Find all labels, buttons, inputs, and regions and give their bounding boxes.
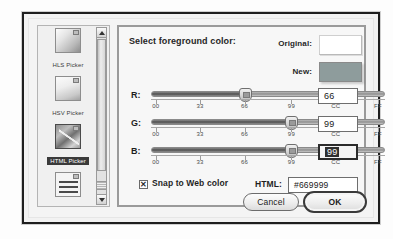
tick-label: 00 <box>152 131 159 137</box>
checkbox-check-icon: ✕ <box>140 181 147 189</box>
scroll-up-arrow-icon[interactable] <box>97 28 106 38</box>
red-value-field[interactable]: 66 <box>318 88 358 104</box>
icon-corner-badge <box>73 30 79 35</box>
screen-background: HLS Picker HSV Picker HTML Picker <box>0 0 393 239</box>
scrollbar-grip[interactable] <box>97 181 106 190</box>
tick-label: 66 <box>241 159 248 165</box>
original-color-swatch <box>319 35 362 55</box>
icon-corner-badge <box>73 78 79 83</box>
blue-value-text: 99 <box>325 147 339 157</box>
new-swatch-label: New: <box>292 67 312 76</box>
scrollbar-thumb[interactable] <box>97 39 106 171</box>
hsv-gradient-icon <box>55 76 81 101</box>
rgb-sliders-icon <box>55 172 81 197</box>
scroll-down-arrow-icon[interactable] <box>97 194 106 204</box>
arrow-down-glyph <box>99 198 105 202</box>
tick-label: 33 <box>197 159 204 165</box>
snap-to-web-label: Snap to Web color <box>152 178 228 188</box>
original-swatch-label: Original: <box>278 39 312 48</box>
channel-label-blue: B: <box>131 146 141 156</box>
blue-slider-fill <box>152 148 291 152</box>
dialog-inner-frame: HLS Picker HSV Picker HTML Picker <box>28 18 374 218</box>
green-value-field[interactable]: 99 <box>318 116 358 132</box>
picker-main-panel: Select foreground color: Original: New: … <box>117 25 366 207</box>
ok-button[interactable]: OK <box>303 191 367 213</box>
tick-label: FF <box>374 103 382 109</box>
picker-item-html[interactable]: HTML Picker <box>38 124 98 170</box>
tick-label: 99 <box>288 131 295 137</box>
color-picker-dialog: HLS Picker HSV Picker HTML Picker <box>22 12 380 224</box>
picker-item-label: HTML Picker <box>47 157 89 165</box>
green-slider-fill <box>152 120 291 124</box>
rgb-icon-bar <box>59 191 78 193</box>
channel-row-blue: B: 00 33 66 99 CC FF <box>119 145 364 171</box>
rgb-icon-bar <box>59 186 78 188</box>
html-field-label: HTML: <box>255 179 282 189</box>
red-value-text: 66 <box>324 91 334 101</box>
tick-label: FF <box>374 131 382 137</box>
picker-list-pane: HLS Picker HSV Picker HTML Picker <box>37 25 110 207</box>
picker-item-label: HSV Picker <box>49 109 87 117</box>
channel-row-green: G: 00 33 66 99 CC FF <box>119 117 364 143</box>
snap-to-web-checkbox[interactable]: ✕ <box>139 180 148 189</box>
tick-label: 33 <box>197 103 204 109</box>
picker-list: HLS Picker HSV Picker HTML Picker <box>38 26 98 207</box>
green-value-text: 99 <box>324 119 334 129</box>
picker-item-hsv[interactable]: HSV Picker <box>38 76 98 122</box>
channel-label-red: R: <box>131 90 141 100</box>
picker-item-label: RGB Picker <box>49 205 87 207</box>
html-color-value: #669999 <box>294 180 329 190</box>
icon-corner-badge <box>73 126 79 131</box>
icon-corner-badge <box>73 174 79 179</box>
tick-label: 33 <box>197 131 204 137</box>
picker-item-label: HLS Picker <box>49 61 86 69</box>
dialog-title: Select foreground color: <box>129 36 236 46</box>
red-slider-fill <box>152 92 245 96</box>
channel-row-red: R: 00 33 66 99 CC FF <box>119 89 364 115</box>
picker-item-rgb[interactable]: RGB Picker <box>38 172 98 207</box>
new-color-swatch <box>319 62 362 82</box>
hls-gradient-icon <box>55 28 81 53</box>
html-gradient-icon <box>55 124 81 149</box>
tick-label: 66 <box>241 131 248 137</box>
tick-label: 00 <box>152 159 159 165</box>
tick-label: FF <box>374 159 382 165</box>
tick-label: 00 <box>152 103 159 109</box>
picker-list-scrollbar[interactable] <box>96 27 107 205</box>
cancel-button[interactable]: Cancel <box>243 193 299 211</box>
tick-label: 99 <box>288 103 295 109</box>
blue-value-field[interactable]: 99 <box>318 144 358 160</box>
arrow-up-glyph <box>99 31 105 35</box>
rgb-icon-bar <box>59 181 78 183</box>
picker-item-hls[interactable]: HLS Picker <box>38 28 98 74</box>
tick-label: 99 <box>288 159 295 165</box>
channel-label-green: G: <box>131 118 141 128</box>
tick-label: 66 <box>241 103 248 109</box>
